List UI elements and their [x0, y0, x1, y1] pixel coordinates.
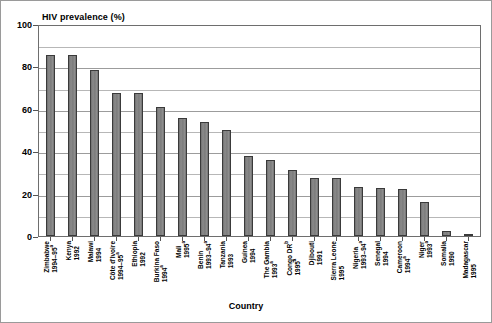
- bar-slot: [128, 26, 150, 236]
- x-label-slot: Senegal1994: [370, 241, 392, 297]
- x-axis-label-10: Guinea1994: [241, 241, 256, 263]
- bar-2[interactable]: [68, 55, 77, 236]
- bar-slot: [457, 26, 479, 236]
- x-axis-label-8: Benin1993–94a: [197, 241, 212, 269]
- bar-10[interactable]: [244, 156, 253, 236]
- bar-slot: [347, 26, 369, 236]
- bar-slot: [369, 26, 391, 236]
- x-axis-label-9: Tanzania1993: [219, 241, 234, 268]
- bar-8[interactable]: [200, 122, 209, 236]
- bar-4[interactable]: [112, 93, 121, 236]
- bar-14[interactable]: [332, 178, 341, 236]
- y-tick-mark-100: [33, 25, 38, 26]
- y-tick-label-80: 80: [2, 62, 32, 72]
- x-label-slot: Madagascar1995: [458, 241, 480, 297]
- bar-slot: [303, 26, 325, 236]
- bar-slot: [260, 26, 282, 236]
- x-axis-labels: Zimbabwe1994–95aKenya1992Malawi1994Côte …: [38, 241, 481, 297]
- y-axis-title: HIV prevalence (%): [42, 12, 125, 22]
- bar-slot: [391, 26, 413, 236]
- bar-3[interactable]: [90, 70, 99, 236]
- y-tick-mark-20: [33, 195, 38, 196]
- bar-slot: [216, 26, 238, 236]
- bar-slot: [106, 26, 128, 236]
- y-tick-label-60: 60: [2, 105, 32, 115]
- bar-slot: [194, 26, 216, 236]
- bar-slot: [325, 26, 347, 236]
- x-label-slot: Guinea1994: [237, 241, 259, 297]
- x-axis-label-11: The Gambia1993a: [263, 241, 278, 278]
- x-axis-label-6: Burkina Faso1994a: [153, 241, 168, 282]
- x-axis-label-20: Madagascar1995: [461, 241, 476, 279]
- x-label-slot: Kenya1992: [61, 241, 83, 297]
- x-axis-label-17: Cameroon1994a: [395, 241, 410, 273]
- y-tick-mark-60: [33, 110, 38, 111]
- bar-slot: [238, 26, 260, 236]
- x-label-slot: Mali1995a: [171, 241, 193, 297]
- plot-area: [38, 25, 481, 237]
- y-tick-label-100: 100: [2, 20, 32, 30]
- x-axis-label-14: Sierra Leone1995: [329, 241, 344, 280]
- x-axis-title: Country: [1, 301, 491, 311]
- bar-slot: [281, 26, 303, 236]
- y-tick-label-40: 40: [2, 147, 32, 157]
- x-axis-label-7: Mali1995a: [175, 241, 190, 258]
- x-axis-label-3: Malawi1994: [87, 241, 102, 262]
- bar-20[interactable]: [464, 234, 473, 236]
- bar-5[interactable]: [134, 93, 143, 236]
- bar-12[interactable]: [288, 170, 297, 236]
- y-tick-mark-40: [33, 152, 38, 153]
- x-axis-label-13: Djibouti1991: [307, 241, 322, 265]
- x-axis-label-19: Somalia1990: [439, 241, 454, 266]
- chart-figure: HIV prevalence (%) 020406080100 Zimbabwe…: [0, 0, 492, 323]
- bar-1[interactable]: [46, 55, 55, 236]
- bar-15[interactable]: [354, 187, 363, 236]
- x-label-slot: Ethiopia1992: [127, 241, 149, 297]
- bar-slot: [435, 26, 457, 236]
- bar-slot: [62, 26, 84, 236]
- x-axis-label-12: Congo DRb1995a: [285, 241, 300, 276]
- x-label-slot: Somalia1990: [436, 241, 458, 297]
- bar-9[interactable]: [222, 130, 231, 236]
- bar-slot: [413, 26, 435, 236]
- bar-18[interactable]: [420, 202, 429, 236]
- x-axis-label-18: Niger1993a: [417, 241, 432, 258]
- x-axis-label-5: Ethiopia1992: [131, 241, 146, 267]
- bar-slot: [150, 26, 172, 236]
- x-axis-label-4: Côte d'Ivoire1994–95a: [109, 241, 124, 280]
- x-label-slot: Malawi1994: [83, 241, 105, 297]
- x-axis-label-2: Kenya1992: [65, 241, 80, 261]
- x-label-slot: Tanzania1993: [215, 241, 237, 297]
- x-label-slot: The Gambia1993a: [259, 241, 281, 297]
- bar-13[interactable]: [310, 178, 319, 236]
- bar-slot: [40, 26, 62, 236]
- x-label-slot: Congo DRb1995a: [282, 241, 304, 297]
- x-label-slot: Zimbabwe1994–95a: [39, 241, 61, 297]
- bars-container: [39, 26, 480, 236]
- x-label-slot: Niger1993a: [414, 241, 436, 297]
- bar-7[interactable]: [178, 118, 187, 236]
- x-label-slot: Djibouti1991: [304, 241, 326, 297]
- bar-11[interactable]: [266, 160, 275, 236]
- x-axis-label-1: Zimbabwe1994–95a: [43, 241, 58, 273]
- x-label-slot: Sierra Leone1995: [326, 241, 348, 297]
- bar-17[interactable]: [398, 189, 407, 236]
- y-tick-mark-80: [33, 67, 38, 68]
- y-tick-label-20: 20: [2, 190, 32, 200]
- bar-16[interactable]: [376, 188, 385, 236]
- x-axis-label-15: Nigeria1993–94a: [351, 241, 366, 269]
- bar-slot: [172, 26, 194, 236]
- x-label-slot: Cameroon1994a: [392, 241, 414, 297]
- x-label-slot: Benin1993–94a: [193, 241, 215, 297]
- y-tick-label-0: 0: [2, 232, 32, 242]
- x-axis-label-16: Senegal1994: [373, 241, 388, 266]
- x-label-slot: Nigeria1993–94a: [348, 241, 370, 297]
- x-label-slot: Côte d'Ivoire1994–95a: [105, 241, 127, 297]
- bar-slot: [84, 26, 106, 236]
- x-label-slot: Burkina Faso1994a: [149, 241, 171, 297]
- bar-19[interactable]: [442, 231, 451, 236]
- bar-6[interactable]: [156, 107, 165, 236]
